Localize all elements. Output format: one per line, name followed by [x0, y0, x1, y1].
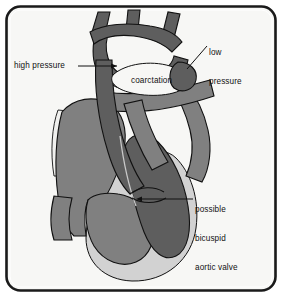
label-valve-line3: aortic valve: [195, 263, 238, 273]
label-high-pressure: high pressure: [14, 61, 65, 71]
inferior-vena-cava: [51, 196, 72, 240]
coarctation-diagram: high pressure low pressure coarctation p…: [0, 0, 282, 297]
label-bicuspid-aortic-valve: possible bicuspid aortic valve: [195, 186, 238, 292]
label-valve-line1: possible: [195, 205, 238, 215]
label-low-pressure-line1: low: [209, 48, 242, 58]
label-low-pressure: low pressure: [209, 29, 242, 106]
label-low-pressure-line2: pressure: [209, 77, 242, 87]
label-valve-line2: bicuspid: [195, 234, 238, 244]
label-coarctation: coarctation: [131, 76, 172, 86]
